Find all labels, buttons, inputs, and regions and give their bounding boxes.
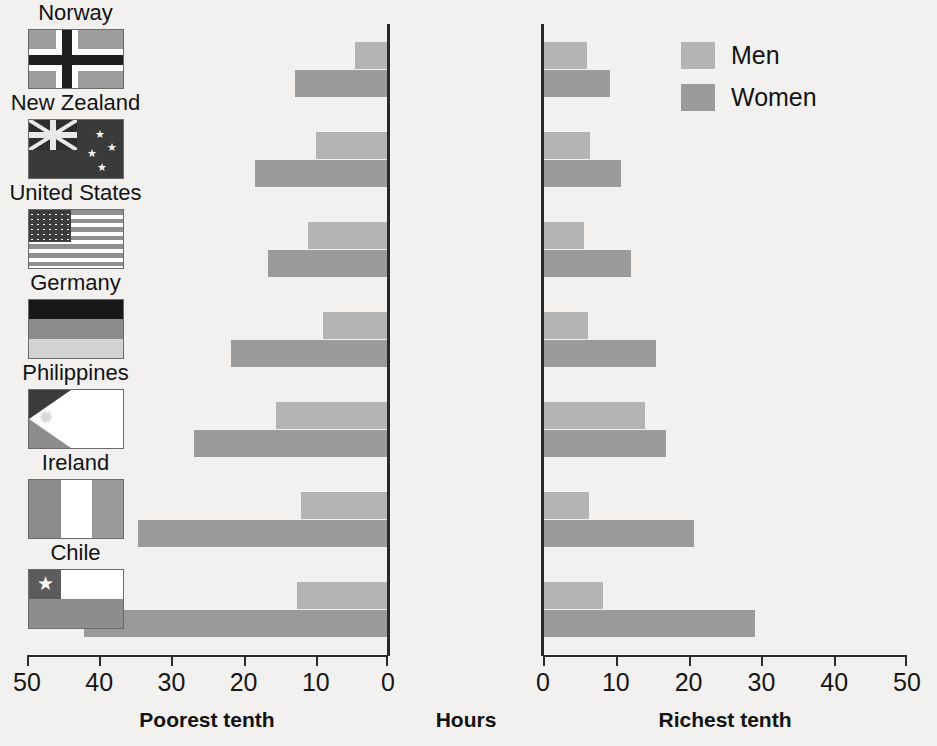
axis-tick	[761, 655, 763, 666]
country-label-philippines: Philippines	[0, 360, 151, 386]
bar-poorest-united-states-women	[268, 250, 388, 277]
center-divider-right	[541, 24, 544, 656]
axis-caption-richest: Richest tenth	[658, 708, 791, 732]
x-axis-poorest: 50403020100	[27, 655, 388, 656]
bar-richest-philippines-women	[543, 430, 666, 457]
bar-row	[543, 394, 907, 480]
bar-richest-new-zealand-women	[543, 160, 621, 187]
bar-row	[543, 574, 907, 660]
bar-poorest-norway-men	[355, 42, 388, 69]
axis-tick	[244, 655, 246, 666]
axis-tick	[171, 655, 173, 666]
axis-tick-label: 0	[381, 668, 395, 697]
country-block-philippines: Philippines✹	[0, 360, 151, 449]
legend-label-men: Men	[731, 41, 780, 70]
country-block-norway: Norway	[0, 0, 151, 89]
bar-richest-new-zealand-men	[543, 132, 590, 159]
bar-richest-norway-men	[543, 42, 587, 69]
flag-norway-icon	[28, 29, 124, 89]
axis-tick	[316, 655, 318, 666]
axis-tick-label: 20	[675, 668, 703, 697]
bar-richest-philippines-men	[543, 402, 645, 429]
country-block-new-zealand: New Zealand★★★★	[0, 90, 151, 179]
bar-row	[543, 124, 907, 210]
legend-label-women: Women	[731, 83, 817, 112]
bar-poorest-new-zealand-men	[316, 132, 389, 159]
diverging-bar-chart: NorwayNew Zealand★★★★United StatesGerman…	[0, 0, 937, 746]
axis-tick-label: 20	[230, 668, 258, 697]
country-block-germany: Germany	[0, 270, 151, 359]
x-axis-richest: 01020304050	[543, 655, 907, 656]
legend: Men Women	[681, 34, 817, 118]
axis-tick	[99, 655, 101, 666]
flag-germany-icon	[28, 299, 124, 359]
axis-caption-poorest: Poorest tenth	[139, 708, 274, 732]
bar-richest-chile-women	[543, 610, 755, 637]
legend-item-women: Women	[681, 76, 817, 118]
axis-tick-label: 40	[820, 668, 848, 697]
bar-poorest-germany-men	[323, 312, 388, 339]
axis-tick-label: 50	[893, 668, 921, 697]
axis-tick	[27, 655, 29, 666]
bar-richest-chile-men	[543, 582, 603, 609]
axis-tick	[386, 655, 388, 666]
bar-poorest-ireland-women	[138, 520, 388, 547]
bar-richest-united-states-men	[543, 222, 584, 249]
axis-tick-label: 30	[157, 668, 185, 697]
richest-tenth-panel	[543, 28, 907, 648]
legend-swatch-men	[681, 42, 715, 69]
country-block-chile: Chile★	[0, 540, 151, 629]
flag-philippines-icon: ✹	[28, 389, 124, 449]
bar-richest-united-states-women	[543, 250, 631, 277]
axis-tick	[834, 655, 836, 666]
axis-tick	[905, 655, 907, 666]
bar-poorest-ireland-men	[301, 492, 388, 519]
axis-tick-label: 0	[536, 668, 550, 697]
axis-caption-hours: Hours	[436, 708, 497, 732]
bar-poorest-united-states-men	[308, 222, 388, 249]
country-label-united-states: United States	[0, 180, 151, 206]
axis-tick	[543, 655, 545, 666]
country-block-ireland: Ireland	[0, 450, 151, 539]
bar-richest-ireland-women	[543, 520, 694, 547]
bar-poorest-philippines-women	[194, 430, 388, 457]
bar-poorest-chile-men	[297, 582, 388, 609]
axis-tick-label: 40	[85, 668, 113, 697]
bar-poorest-philippines-men	[276, 402, 388, 429]
bar-poorest-norway-women	[295, 70, 388, 97]
bar-row	[543, 214, 907, 300]
bar-poorest-germany-women	[231, 340, 388, 367]
bar-richest-germany-men	[543, 312, 588, 339]
axis-tick-label: 10	[302, 668, 330, 697]
country-block-united-states: United States	[0, 180, 151, 269]
axis-tick-label: 10	[602, 668, 630, 697]
flag-new-zealand-icon: ★★★★	[28, 119, 124, 179]
flag-chile-icon: ★	[28, 569, 124, 629]
axis-tick-label: 30	[747, 668, 775, 697]
bar-row	[543, 484, 907, 570]
country-label-germany: Germany	[0, 270, 151, 296]
bar-richest-ireland-men	[543, 492, 589, 519]
country-label-column: NorwayNew Zealand★★★★United StatesGerman…	[0, 0, 151, 640]
flag-ireland-icon	[28, 479, 124, 539]
country-label-ireland: Ireland	[0, 450, 151, 476]
axis-tick	[689, 655, 691, 666]
bar-richest-norway-women	[543, 70, 610, 97]
legend-item-men: Men	[681, 34, 817, 76]
center-divider-left	[387, 24, 390, 656]
axis-tick	[616, 655, 618, 666]
country-label-norway: Norway	[0, 0, 151, 26]
country-label-new-zealand: New Zealand	[0, 90, 151, 116]
bar-poorest-new-zealand-women	[255, 160, 388, 187]
legend-swatch-women	[681, 84, 715, 111]
country-label-chile: Chile	[0, 540, 151, 566]
bar-row	[543, 304, 907, 390]
bar-richest-germany-women	[543, 340, 656, 367]
axis-tick-label: 50	[13, 668, 41, 697]
flag-united-states-icon	[28, 209, 124, 269]
